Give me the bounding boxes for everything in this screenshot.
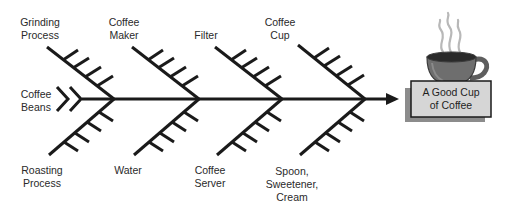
label-filter: Filter [186,29,226,42]
label-coffee-server: Coffee Server [190,164,230,190]
bone-filter [215,47,282,99]
label-water: Water [108,164,148,177]
bone-coffee-server [217,99,282,155]
spine-arrow-icon [386,93,399,105]
bone-coffee-maker [132,47,199,99]
bone-grinding-process [47,47,114,99]
label-grinding-process: Grinding Process [14,16,66,42]
label-roasting-process: Roasting Process [18,164,66,190]
coffee-cup-icon [427,13,487,84]
label-coffee-maker: Coffee Maker [104,16,144,42]
label-spoon-sweetener-cream: Spoon, Sweetener, Cream [262,165,322,204]
tail-chevron-1 [57,87,68,111]
label-coffee-cup: Coffee Cup [260,16,300,42]
tail-chevron-2 [70,87,81,111]
bone-coffee-cup [298,45,365,99]
bone-water [134,99,199,155]
label-coffee-beans: Coffee Beans [18,88,54,114]
bone-spoon-sweetener-cream [300,99,365,155]
effect-label: A Good Cup of Coffee [411,81,491,117]
